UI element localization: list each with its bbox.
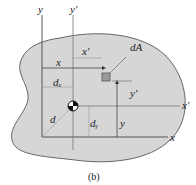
y-prime-distance-label: y′	[130, 88, 137, 99]
figure-caption: (b)	[88, 172, 100, 182]
y-distance-label: y	[120, 118, 125, 129]
d-label: d	[50, 114, 56, 125]
y-axis-label: y	[38, 4, 43, 15]
y-prime-axis-label: y′	[70, 4, 77, 15]
area-region	[12, 34, 186, 162]
dA-label: dA	[130, 42, 142, 53]
x-prime-axis-label: x′	[182, 100, 189, 111]
dA-element	[102, 73, 110, 81]
x-distance-label: x	[56, 57, 61, 68]
centroid-icon	[68, 101, 78, 111]
x-prime-distance-label: x′	[82, 46, 89, 57]
dx-label: dₓ	[53, 77, 62, 88]
dy-label: dᵧ	[90, 118, 98, 129]
x-axis-label: x	[170, 132, 175, 143]
diagram-canvas	[0, 0, 196, 185]
